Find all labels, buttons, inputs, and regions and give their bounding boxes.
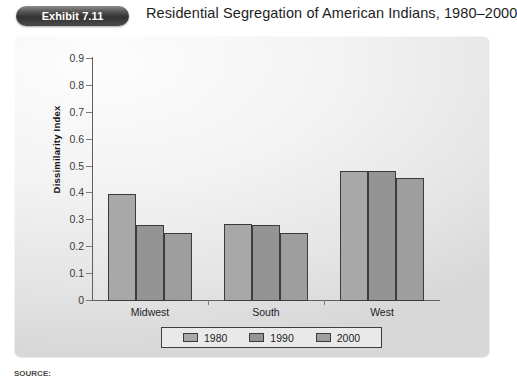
legend-item-2000: 2000 — [316, 332, 360, 344]
x-tick — [208, 300, 209, 305]
y-tick — [86, 166, 92, 167]
y-tick-label: 0.5 — [20, 161, 84, 171]
y-tick-label: 0.3 — [20, 214, 84, 224]
exhibit-header: Exhibit 7.11 Residential Segregation of … — [0, 0, 502, 34]
legend-item-1980: 1980 — [183, 332, 227, 344]
x-category-label: South — [208, 306, 324, 318]
bar-midwest-2000 — [164, 233, 192, 301]
legend-swatch-1990 — [249, 333, 264, 342]
bar-west-1980 — [340, 171, 368, 301]
y-tick-label: 0.8 — [20, 80, 84, 90]
legend-label: 2000 — [337, 332, 360, 344]
exhibit-badge: Exhibit 7.11 — [16, 6, 129, 26]
bar-west-2000 — [396, 178, 424, 301]
legend-label: 1990 — [270, 332, 293, 344]
chart-legend: 198019902000 — [161, 327, 382, 348]
legend-swatch-2000 — [316, 333, 331, 342]
legend-label: 1980 — [204, 332, 227, 344]
bar-south-1990 — [252, 225, 280, 301]
y-tick-label: 0.4 — [20, 187, 84, 197]
y-tick — [86, 192, 92, 193]
y-tick — [86, 139, 92, 140]
source-line: SOURCE: — [14, 369, 51, 379]
bar-midwest-1980 — [108, 194, 136, 301]
figure-panel: Dissimilarity Index 00.10.20.30.40.50.60… — [14, 36, 490, 358]
bar-west-1990 — [368, 171, 396, 301]
y-axis-line — [92, 57, 93, 301]
x-category-label: West — [324, 306, 440, 318]
bar-midwest-1990 — [136, 225, 164, 301]
page-title: Residential Segregation of American Indi… — [146, 5, 517, 21]
x-tick — [324, 300, 325, 305]
y-tick-label: 0 — [20, 295, 84, 305]
plot-area: Dissimilarity Index 00.10.20.30.40.50.60… — [14, 36, 490, 358]
y-tick — [86, 219, 92, 220]
y-tick — [86, 58, 92, 59]
x-category-label: Midwest — [92, 306, 208, 318]
bar-south-1980 — [224, 224, 252, 301]
y-tick — [86, 85, 92, 86]
y-tick-label: 0.7 — [20, 107, 84, 117]
source-label: SOURCE: — [14, 369, 51, 378]
legend-swatch-1980 — [183, 333, 198, 342]
y-tick-label: 0.1 — [20, 268, 84, 278]
y-tick-label: 0.6 — [20, 134, 84, 144]
legend-item-1990: 1990 — [249, 332, 293, 344]
y-tick — [86, 300, 92, 301]
y-tick — [86, 246, 92, 247]
y-tick-label: 0.9 — [20, 53, 84, 63]
y-tick-label: 0.2 — [20, 241, 84, 251]
y-tick — [86, 112, 92, 113]
y-tick — [86, 273, 92, 274]
bar-south-2000 — [280, 233, 308, 301]
